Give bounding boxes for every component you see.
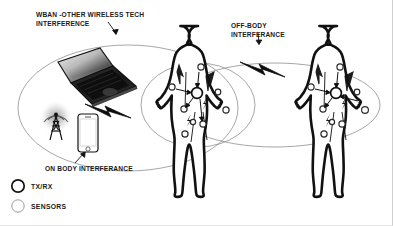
- body-left: [156, 26, 229, 197]
- smartphone-icon: [78, 114, 98, 152]
- label-wban-interference: WBAN -OTHER WIRELESS TECH INTERFERENCE: [36, 11, 144, 28]
- leader-arrow-onbody: [75, 152, 85, 163]
- legend-marker-sensors: [12, 200, 24, 212]
- diagram-svg: [0, 0, 393, 226]
- legend-marker-txrx: [12, 180, 24, 192]
- bolt-body-to-body: [240, 62, 285, 77]
- legend-label-sensors: SENSORS: [31, 203, 66, 210]
- txrx-node: [192, 88, 203, 99]
- label-on-body-interference: ON BODY INTERFERANCE: [45, 165, 133, 174]
- legend-label-txrx: TX/RX: [31, 183, 53, 190]
- label-off-body-interference: OFF-BODY INTERFERANCE: [231, 22, 285, 39]
- antenna-tower-icon: [39, 100, 73, 140]
- laptop-icon: [58, 48, 137, 107]
- body-right: [295, 26, 368, 197]
- diagram-canvas: WBAN -OTHER WIRELESS TECH INTERFERENCE O…: [0, 0, 393, 226]
